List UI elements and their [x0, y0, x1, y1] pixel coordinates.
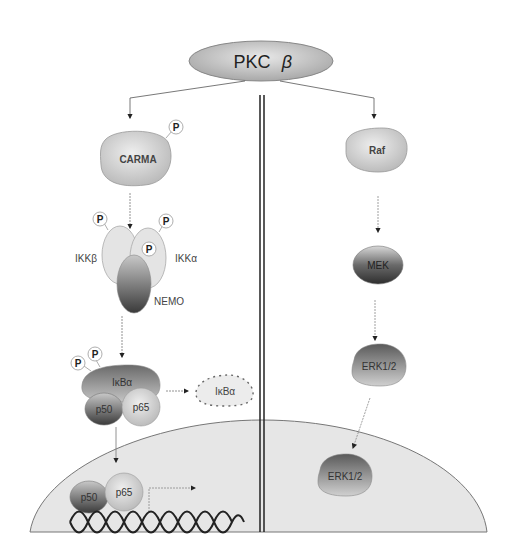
mek-label: MEK [367, 260, 389, 271]
svg-text:P: P [75, 358, 82, 369]
mek-node: MEK [353, 246, 403, 284]
carma-node: CARMA P [100, 120, 183, 186]
ikk-beta-label: IKKβ [75, 253, 97, 264]
raf-node: Raf [346, 128, 407, 172]
ikba-p50-p65-complex: IκBα p50 p65 P P [71, 347, 160, 426]
svg-text:p50: p50 [96, 404, 113, 415]
nemo-label: NEMO [154, 296, 184, 307]
erk-cyto-label: ERK1/2 [362, 361, 397, 372]
nucleus [30, 420, 487, 532]
ikk-complex: P P P IKKβ IKKα NEMO [75, 212, 197, 313]
pkc-beta-greek: β [281, 52, 292, 72]
erk-nuclear-label: ERK1/2 [328, 471, 363, 482]
svg-text:P: P [173, 122, 180, 133]
pkc-label: PKC [233, 52, 270, 72]
svg-text:p65: p65 [116, 487, 133, 498]
ikba-label: IκBα [112, 377, 132, 388]
degraded-ikba-node: IκBα [196, 375, 253, 406]
pkc-branch-arrows [130, 81, 374, 118]
svg-text:p50: p50 [81, 492, 98, 503]
svg-text:P: P [146, 244, 153, 255]
pkc-beta-signaling-diagram: PKC β CARMA P P P P IKKβ IKKα NEMO [0, 0, 516, 559]
svg-text:P: P [163, 216, 170, 227]
raf-label: Raf [369, 145, 386, 156]
erk-cytoplasmic-node: ERK1/2 [352, 344, 406, 386]
svg-text:P: P [92, 349, 99, 360]
degraded-ikba-label: IκBα [215, 386, 235, 397]
pkc-beta-node: PKC β [189, 41, 333, 81]
svg-text:P: P [97, 214, 104, 225]
svg-text:p65: p65 [133, 402, 150, 413]
carma-label: CARMA [119, 154, 156, 165]
erk-nuclear-node: ERK1/2 [318, 454, 372, 496]
nemo-node [117, 255, 151, 313]
ikk-alpha-label: IKKα [175, 253, 197, 264]
